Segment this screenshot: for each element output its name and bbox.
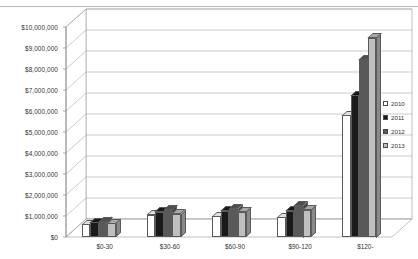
legend-swatch-icon xyxy=(383,143,388,148)
legend-label: 2012 xyxy=(391,128,405,135)
x-axis-category-label: $60-90 xyxy=(225,243,245,250)
legend-label: 2013 xyxy=(391,142,405,149)
legend-item-2013: 2013 xyxy=(383,138,405,152)
legend-label: 2010 xyxy=(391,100,405,107)
legend-item-2011: 2011 xyxy=(383,110,405,124)
x-axis-labels: $0-30$30-60$60-90$90-120$120- xyxy=(0,0,418,259)
x-axis-category-label: $0-30 xyxy=(96,243,112,250)
chart-legend: 2010201120122013 xyxy=(383,96,405,152)
legend-swatch-icon xyxy=(383,129,388,134)
x-axis-category-label: $120- xyxy=(357,243,373,250)
legend-item-2010: 2010 xyxy=(383,96,405,110)
legend-swatch-icon xyxy=(383,115,388,120)
chart-container: $0$1,000,000$2,000,000$3,000,000$4,000,0… xyxy=(0,0,418,259)
x-axis-category-label: $30-60 xyxy=(160,243,180,250)
legend-label: 2011 xyxy=(391,114,404,121)
legend-swatch-icon xyxy=(383,101,388,106)
legend-item-2012: 2012 xyxy=(383,124,405,138)
x-axis-category-label: $90-120 xyxy=(288,243,311,250)
